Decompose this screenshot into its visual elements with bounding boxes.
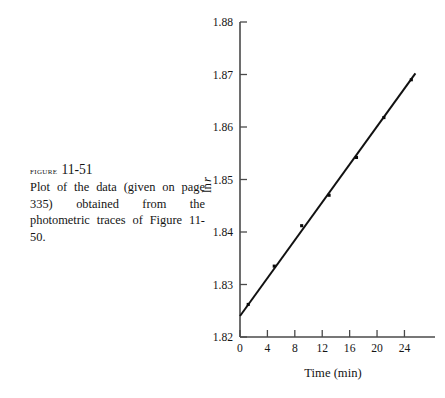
y-axis-tick-labels: 1.821.831.841.851.861.871.88 <box>213 16 233 344</box>
x-tick-label: 8 <box>292 342 298 355</box>
y-tick-label: 1.85 <box>213 174 233 187</box>
x-axis-tick-labels: 04812162024 <box>237 342 410 355</box>
y-tick-label: 1.82 <box>213 331 233 344</box>
y-axis-title: ln r <box>200 177 214 193</box>
y-tick-label: 1.86 <box>213 121 233 134</box>
y-axis-title-group: ln r <box>200 177 214 193</box>
x-axis-title: Time (min) <box>304 366 361 380</box>
figure-container: figure11-51 Plot of the data (given on p… <box>0 0 445 398</box>
y-axis-ticks <box>240 22 247 337</box>
data-point <box>410 78 413 81</box>
x-tick-label: 20 <box>371 342 383 355</box>
data-point <box>382 116 385 119</box>
y-tick-label: 1.83 <box>213 279 233 292</box>
x-tick-label: 0 <box>237 342 243 355</box>
data-point <box>355 156 358 159</box>
x-axis-ticks <box>240 330 404 337</box>
data-point <box>247 303 250 306</box>
y-tick-label: 1.88 <box>213 16 233 29</box>
y-tick-label: 1.84 <box>213 226 233 239</box>
data-point <box>328 194 331 197</box>
y-tick-label: 1.87 <box>213 69 233 82</box>
data-point <box>300 224 303 227</box>
chart-svg: 04812162024 1.821.831.841.851.861.871.88… <box>0 0 445 398</box>
x-tick-label: 12 <box>316 342 328 355</box>
chart-plot-area: 04812162024 1.821.831.841.851.861.871.88… <box>0 0 445 398</box>
x-tick-label: 16 <box>344 342 356 355</box>
data-point <box>273 265 276 268</box>
x-tick-label: 4 <box>265 342 271 355</box>
x-tick-label: 24 <box>399 342 411 355</box>
